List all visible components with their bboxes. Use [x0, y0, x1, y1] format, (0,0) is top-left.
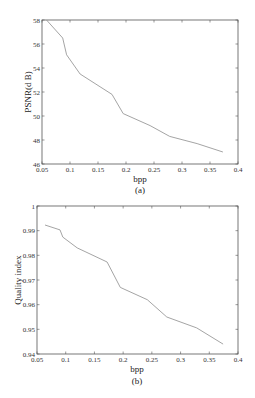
y-tick-label: 56	[33, 41, 41, 49]
x-tick-label: 0.2	[119, 356, 128, 364]
figure: 0.050.10.150.20.250.30.350.4 46485052545…	[0, 0, 255, 398]
x-tick-label: 0.35	[203, 356, 216, 364]
y-tick-label: 50	[33, 113, 41, 121]
y-tick-label: 0.96	[23, 301, 36, 309]
x-tick-label: 0.4	[234, 166, 243, 174]
y-tick-label: 1	[32, 203, 36, 211]
y-tick-label: 0.98	[23, 252, 36, 260]
chart-a-psnr: 0.050.10.150.20.250.30.350.4 46485052545…	[23, 17, 243, 196]
chart-b-quality-index: 0.050.10.150.20.250.30.350.4 0.940.950.9…	[13, 203, 243, 387]
chart-a-x-axis-label: bpp	[133, 174, 147, 184]
y-tick-label: 0.99	[23, 227, 36, 235]
chart-b-x-axis-label: bpp	[130, 364, 144, 374]
y-tick-label: 48	[33, 137, 41, 145]
x-tick-label: 0.2	[122, 166, 131, 174]
x-tick-label: 0.15	[88, 356, 101, 364]
x-tick-label: 0.15	[92, 166, 105, 174]
x-tick-label: 0.3	[178, 166, 187, 174]
x-tick-label: 0.25	[148, 166, 161, 174]
y-tick-label: 0.97	[23, 277, 36, 285]
y-tick-label: 0.95	[23, 326, 36, 334]
chart-b-plot-frame	[37, 206, 238, 354]
x-tick-label: 0.3	[176, 356, 185, 364]
chart-a-series-line	[47, 20, 223, 152]
chart-a-y-ticks: 46485052545658	[33, 17, 238, 169]
chart-b-x-ticks: 0.050.10.150.20.250.30.350.4	[31, 206, 243, 364]
x-tick-label: 0.1	[66, 166, 75, 174]
chart-b-y-axis-label: Quality index	[13, 255, 23, 305]
chart-a-caption: (a)	[135, 185, 145, 195]
chart-a-y-axis-label: PSNR(d B)	[23, 71, 33, 112]
x-tick-label: 0.4	[234, 356, 243, 364]
x-tick-label: 0.25	[146, 356, 159, 364]
chart-a-plot-frame	[42, 20, 238, 164]
chart-b-caption: (b)	[132, 376, 143, 386]
y-tick-label: 0.94	[23, 351, 36, 359]
y-tick-label: 58	[33, 17, 41, 25]
x-tick-label: 0.35	[204, 166, 217, 174]
y-tick-label: 52	[33, 89, 41, 97]
y-tick-label: 54	[33, 65, 41, 73]
x-tick-label: 0.1	[61, 356, 70, 364]
y-tick-label: 46	[33, 161, 41, 169]
chart-b-y-ticks: 0.940.950.960.970.980.991	[23, 203, 238, 359]
chart-a-x-ticks: 0.050.10.150.20.250.30.350.4	[36, 20, 243, 174]
chart-b-series-line	[45, 225, 223, 344]
